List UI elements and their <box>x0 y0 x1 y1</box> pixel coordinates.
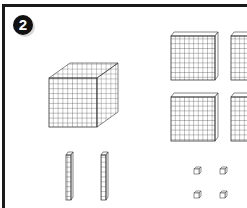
ten-rod-icon <box>66 152 73 200</box>
hundred-flat-icon <box>171 93 218 141</box>
one-unit-icon <box>194 167 201 174</box>
problem-card: 2 <box>0 0 247 208</box>
base-ten-blocks-illustration <box>0 0 247 208</box>
hundred-flat-icon <box>171 32 218 80</box>
ten-rod-icon <box>101 152 108 200</box>
hundred-flat-icon <box>231 93 247 141</box>
one-unit-icon <box>220 167 227 174</box>
hundred-flat-icon <box>231 32 247 80</box>
one-unit-icon <box>220 191 227 198</box>
thousand-cube-icon <box>49 63 118 127</box>
one-unit-icon <box>194 191 201 198</box>
